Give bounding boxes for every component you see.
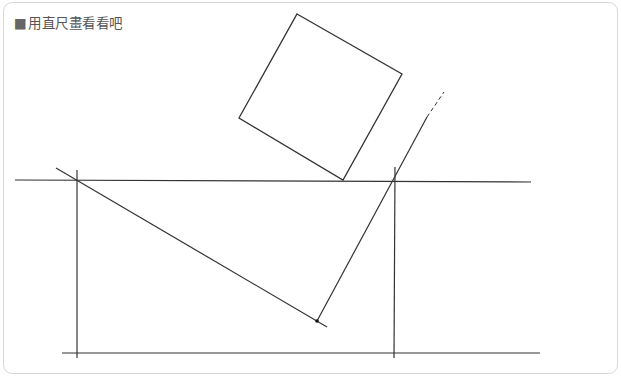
long-diagonal-line xyxy=(56,168,327,327)
intersection-point xyxy=(315,319,319,323)
steep-diagonal-line xyxy=(317,117,427,321)
dashed-lines xyxy=(427,92,444,117)
top-horizontal-line xyxy=(15,180,531,182)
solid-lines xyxy=(15,117,540,358)
right-vertical-line xyxy=(394,167,395,358)
rotated-square xyxy=(239,14,402,180)
ruler-drawing xyxy=(0,0,621,385)
steep-diagonal-extension-line xyxy=(427,92,444,117)
